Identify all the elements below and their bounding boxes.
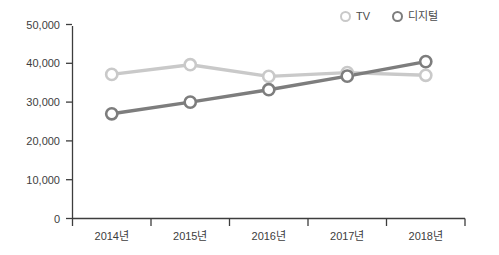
- data-point: [185, 97, 196, 108]
- data-point: [342, 71, 353, 82]
- data-point: [106, 69, 117, 80]
- y-axis-label-10000: 10,000: [4, 174, 60, 185]
- x-axis-label-2017: 2017년: [330, 231, 364, 242]
- y-axis-label-0: 0: [4, 213, 60, 224]
- x-axis-label-2016: 2016년: [252, 231, 286, 242]
- line-chart: TV 디지털: [0, 0, 499, 255]
- y-axis-label-40000: 40,000: [4, 58, 60, 69]
- y-axis-ticks: [66, 25, 72, 219]
- y-axis-label-50000: 50,000: [4, 19, 60, 30]
- data-point: [263, 84, 274, 95]
- data-point: [420, 56, 431, 67]
- x-axis-label-2014: 2014년: [95, 231, 129, 242]
- data-point: [106, 108, 117, 119]
- y-axis-label-30000: 30,000: [4, 97, 60, 108]
- x-axis-label-2015: 2015년: [173, 231, 207, 242]
- plot-area: [0, 0, 499, 255]
- y-axis-label-20000: 20,000: [4, 135, 60, 146]
- data-point: [185, 59, 196, 70]
- series-markers-digital: [106, 56, 431, 119]
- x-axis-label-2018: 2018년: [409, 231, 443, 242]
- data-point: [263, 71, 274, 82]
- x-axis-ticks: [73, 219, 466, 227]
- data-point: [420, 70, 431, 81]
